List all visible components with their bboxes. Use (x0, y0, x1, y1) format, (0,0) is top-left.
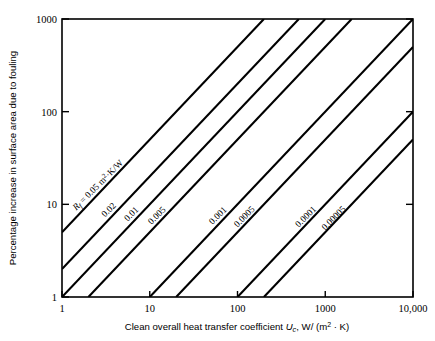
x-axis-title: Clean overall heat transfer coefficient … (125, 321, 349, 334)
y-tick-label-3: 1000 (36, 14, 57, 25)
chart-container: 110100100010,000 1101001000 Rf = 0.05 m2… (0, 0, 435, 341)
y-tick-label-1: 10 (47, 199, 58, 210)
y-tick-label-0: 1 (52, 292, 57, 303)
x-tick-label-4: 10,000 (399, 303, 428, 314)
y-tick-label-2: 100 (41, 107, 57, 118)
y-axis-title: Percentage increase in surface area due … (7, 51, 18, 265)
x-tick-label-3: 1000 (315, 303, 336, 314)
x-tick-label-1: 10 (145, 303, 156, 314)
x-tick-label-0: 1 (59, 303, 64, 314)
x-tick-label-2: 100 (230, 303, 246, 314)
plot-background (0, 0, 435, 341)
log-log-plot: 110100100010,000 1101001000 Rf = 0.05 m2… (0, 0, 435, 341)
